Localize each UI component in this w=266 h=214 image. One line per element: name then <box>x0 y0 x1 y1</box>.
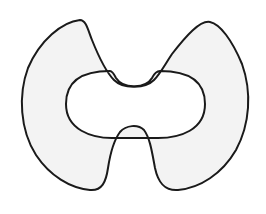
bowtie-shape-drawing <box>0 0 266 214</box>
bowtie-shape <box>22 20 248 190</box>
figure-canvas <box>0 0 266 214</box>
